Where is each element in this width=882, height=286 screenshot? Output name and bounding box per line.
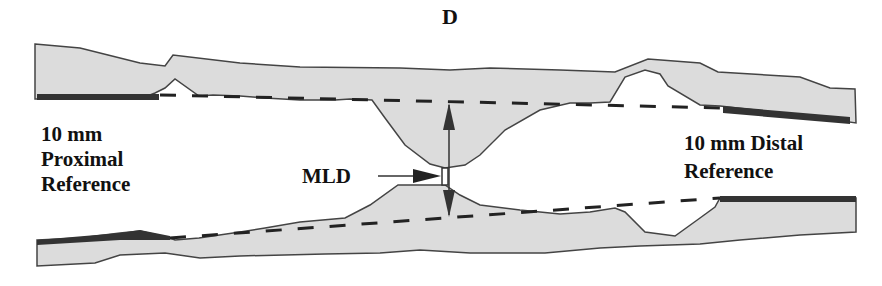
mld-marker [442,168,448,185]
distal-lower-reference-bar [720,196,856,202]
proximal-label-line3: Reference [41,172,130,197]
proximal-upper-reference-bar [37,94,159,100]
proximal-label-line1: 10 mm [41,122,102,147]
distal-label-line2: Reference [684,159,773,184]
proximal-label-line2: Proximal [41,147,123,172]
panel-label: D [442,4,458,29]
distal-label-line1: 10 mm Distal [684,131,803,156]
mld-label: MLD [302,164,351,189]
mld-arrowhead-icon [413,169,441,183]
